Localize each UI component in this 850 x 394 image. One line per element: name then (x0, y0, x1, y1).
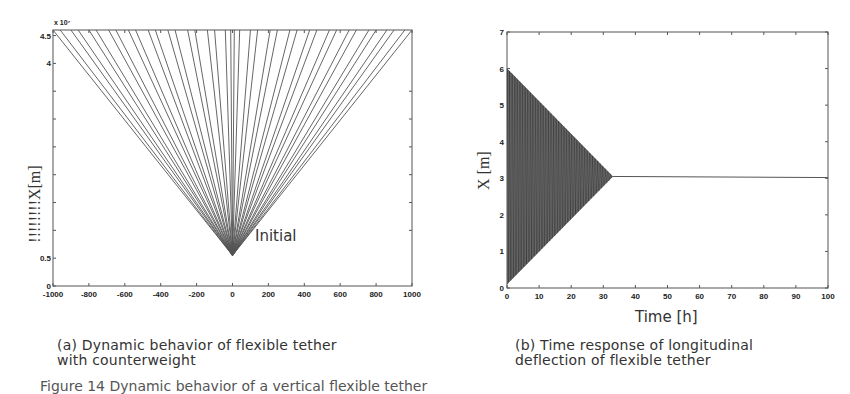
fan-line (53, 30, 233, 255)
fan-line (60, 30, 232, 255)
chart-a-caption: (a) Dynamic behavior of flexible tether … (57, 338, 357, 368)
fan-line (233, 30, 350, 255)
x-tick-label: 40 (631, 292, 640, 301)
chart-b-ylabel: X [m] (475, 151, 492, 190)
y-tick-label: 0 (500, 284, 505, 293)
y-tick-label: 1 (500, 247, 505, 256)
y-tick-label: 3 (500, 174, 505, 183)
y-tick-label: 7 (500, 28, 505, 37)
y-tick-label: 0 (47, 282, 52, 291)
chart-b-signal (507, 69, 828, 285)
y-tick-label: 4 (500, 138, 505, 147)
x-tick-label: -600 (117, 290, 134, 299)
x-tick-label: -200 (189, 290, 206, 299)
x-tick-label: 1000 (403, 290, 421, 299)
fan-line (116, 30, 233, 255)
steady-state-line (613, 176, 828, 177)
fan-line (71, 30, 233, 255)
x-tick-label: 50 (663, 292, 672, 301)
chart-b-xlabel: Time [h] (634, 308, 698, 326)
x-tick-label: 100 (821, 292, 835, 301)
y-tick-label: 4.5 (40, 32, 52, 41)
x-tick-label: 800 (369, 290, 383, 299)
x-tick-label: 20 (567, 292, 576, 301)
x-tick-label: 600 (334, 290, 348, 299)
y-tick-label: 0.5 (40, 254, 52, 263)
chart-a-annotation-initial: Initial (255, 227, 297, 245)
x-tick-label: 30 (599, 292, 608, 301)
y-tick-label: 4 (47, 59, 52, 68)
y-tick-label: 6 (500, 65, 505, 74)
chart-a-fan-lines (53, 30, 412, 255)
chart-a-ylabel: !!!!!!!!X[m] (26, 165, 44, 242)
x-tick-label: 200 (262, 290, 276, 299)
x-tick-label: 0 (230, 290, 235, 299)
y-tick-label: 5 (500, 101, 505, 110)
fan-line (233, 30, 387, 255)
x-tick-label: 400 (298, 290, 312, 299)
x-tick-label: 70 (727, 292, 736, 301)
figure-caption-partial: Figure 14 Dynamic behavior of a vertical… (40, 378, 427, 394)
x-tick-label: -1000 (43, 290, 64, 299)
y-tick-label: 2 (500, 211, 505, 220)
chart-b: 0102030405060708090100 01234567 Time [h]… (475, 28, 835, 326)
x-tick-label: 10 (535, 292, 544, 301)
fan-line (233, 30, 395, 255)
x-tick-label: 0 (505, 292, 510, 301)
x-tick-label: 80 (759, 292, 768, 301)
fan-line (233, 30, 405, 255)
x-tick-label: -400 (153, 290, 170, 299)
fan-line (233, 30, 413, 255)
x-tick-label: 60 (695, 292, 704, 301)
fan-line (96, 30, 232, 255)
x-tick-label: 90 (791, 292, 800, 301)
fan-line (78, 30, 232, 255)
fan-line (233, 30, 369, 255)
chart-a-y-ticks: 00.544.5 (40, 32, 412, 291)
chart-b-caption: (b) Time response of longitudinal deflec… (515, 338, 825, 368)
chart-a: -1000-800-600-400-20002004006008001000 0… (40, 19, 422, 299)
x-tick-label: -800 (81, 290, 98, 299)
chart-a-exponent-label: x 10⁷ (54, 19, 71, 26)
